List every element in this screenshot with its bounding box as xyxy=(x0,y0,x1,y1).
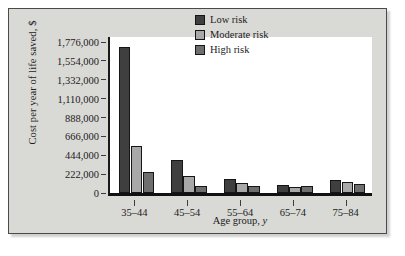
y-axis-tick-mark xyxy=(101,117,106,118)
y-axis-tick-labels: 0222,000444,000666,000888,0001,110,0001,… xyxy=(23,36,99,196)
y-axis-tick-label: 0 xyxy=(23,188,99,199)
bar-group xyxy=(330,37,366,193)
bar xyxy=(248,186,260,193)
y-axis-tick-mark xyxy=(101,193,106,194)
x-axis-tick-mark xyxy=(240,200,241,206)
bars-container xyxy=(110,37,372,193)
x-axis-tick-mark xyxy=(187,200,188,206)
bar xyxy=(171,160,183,193)
y-axis-tick-mark xyxy=(101,174,106,175)
bar xyxy=(119,47,131,193)
y-axis-tick-label: 1,332,000 xyxy=(23,74,99,85)
bar xyxy=(289,187,301,193)
legend-swatch-icon xyxy=(195,45,205,55)
x-axis-title-text: Age group, xyxy=(213,215,260,226)
x-axis-tick-mark xyxy=(293,200,294,206)
y-axis-tick-label: 666,000 xyxy=(23,131,99,142)
bar xyxy=(195,186,207,193)
bar xyxy=(301,186,313,193)
bar xyxy=(224,179,236,193)
legend-swatch-icon xyxy=(195,30,205,40)
bar xyxy=(131,146,143,193)
y-axis-tick-label: 1,554,000 xyxy=(23,55,99,66)
bar xyxy=(183,176,195,193)
bar-group xyxy=(171,37,207,193)
y-axis-tick-mark xyxy=(101,42,106,43)
x-axis-title: Age group, y xyxy=(108,215,372,226)
legend-item: Low risk xyxy=(195,13,269,26)
legend-item: High risk xyxy=(195,43,269,56)
bar-group xyxy=(277,37,313,193)
legend-swatch-icon xyxy=(195,15,205,25)
bar xyxy=(143,172,155,193)
y-axis-tick-mark xyxy=(101,98,106,99)
plot-area xyxy=(108,37,372,196)
x-axis-tick-mark xyxy=(346,200,347,206)
y-axis-tick-label: 1,110,000 xyxy=(23,93,99,104)
y-axis-tick-label: 222,000 xyxy=(23,169,99,180)
x-axis-tick-mark xyxy=(134,200,135,206)
bar xyxy=(354,184,366,193)
y-axis-tick-mark xyxy=(101,155,106,156)
legend-item: Moderate risk xyxy=(195,28,269,41)
bar xyxy=(236,183,248,193)
chart-legend: Low riskModerate riskHigh risk xyxy=(195,13,269,58)
y-axis-tick-label: 888,000 xyxy=(23,112,99,123)
legend-label: Low risk xyxy=(210,14,248,25)
bar xyxy=(277,185,289,193)
y-axis-tick-label: 444,000 xyxy=(23,150,99,161)
y-axis-tick-mark xyxy=(101,79,106,80)
bar xyxy=(342,182,354,193)
chart-figure: Cost per year of life saved, $ 0222,0004… xyxy=(8,8,387,234)
legend-label: Moderate risk xyxy=(210,29,269,40)
bar xyxy=(330,180,342,193)
bar-group xyxy=(119,37,155,193)
bar-group xyxy=(224,37,260,193)
legend-label: High risk xyxy=(210,44,249,55)
x-axis-title-italic: y xyxy=(263,215,268,226)
y-axis-tick-label: 1,776,000 xyxy=(23,37,99,48)
y-axis-tick-mark xyxy=(101,60,106,61)
y-axis-tick-mark xyxy=(101,136,106,137)
